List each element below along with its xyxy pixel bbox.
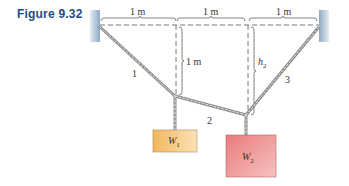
- cable-1-label: 1: [132, 68, 137, 79]
- weight-2-box: [226, 135, 276, 177]
- drop-2-label: h2: [258, 56, 267, 70]
- span-3-label: 1 m: [276, 6, 292, 17]
- cable-3-label: 3: [285, 74, 290, 85]
- drop-braces: [179, 27, 256, 115]
- span-1-label: 1 m: [130, 6, 146, 17]
- span-2-label: 1 m: [203, 6, 219, 17]
- right-wall: [319, 10, 329, 42]
- cable-diagram: 1 m 1 m 1 m 1 m h2 1 2 3 W1 W2: [0, 0, 349, 186]
- left-wall: [90, 10, 100, 42]
- cable-2-label: 2: [207, 115, 212, 126]
- drop-1-label: 1 m: [186, 56, 202, 67]
